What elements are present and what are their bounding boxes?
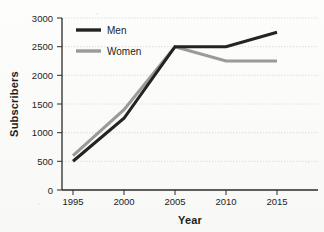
y-tick-marks: [57, 18, 62, 190]
x-tick-label: 2005: [164, 196, 185, 207]
y-tick-labels: 3000 2500 2000 1500 1000 500 0: [32, 13, 53, 196]
series-line-women: [73, 47, 277, 156]
x-tick-marks: [73, 190, 277, 195]
x-axis-title: Year: [178, 214, 203, 226]
legend: Men Women: [76, 25, 141, 57]
y-tick-label: 2500: [32, 41, 53, 52]
x-tick-label: 2010: [215, 196, 236, 207]
x-tick-labels: 1995 2000 2005 2010 2015: [62, 196, 287, 207]
chart-canvas: 3000 2500 2000 1500 1000 500 0 1995 2000…: [0, 0, 324, 232]
line-chart: 3000 2500 2000 1500 1000 500 0 1995 2000…: [0, 0, 324, 232]
x-tick-label: 2015: [266, 196, 287, 207]
y-tick-label: 0: [48, 185, 53, 196]
y-tick-label: 3000: [32, 13, 53, 24]
y-tick-label: 1000: [32, 127, 53, 138]
series-line-men: [73, 32, 277, 161]
y-tick-label: 1500: [32, 99, 53, 110]
y-axis-title: Subscribers: [8, 71, 20, 137]
y-tick-label: 2000: [32, 70, 53, 81]
x-tick-label: 1995: [62, 196, 83, 207]
y-tick-label: 500: [37, 156, 53, 167]
legend-label-men: Men: [107, 25, 126, 36]
axis-lines: [62, 18, 318, 190]
x-tick-label: 2000: [113, 196, 134, 207]
legend-label-women: Women: [107, 46, 141, 57]
